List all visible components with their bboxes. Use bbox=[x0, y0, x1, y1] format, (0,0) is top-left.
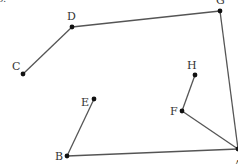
label-d: D bbox=[67, 10, 76, 23]
labels-layer: CDGHFEBA bbox=[12, 0, 238, 164]
label-f: F bbox=[170, 105, 178, 118]
point-b bbox=[65, 154, 70, 159]
segment-fa bbox=[182, 111, 238, 149]
point-g bbox=[218, 9, 223, 14]
point-e bbox=[92, 97, 97, 102]
point-f bbox=[180, 109, 185, 114]
segment-ga bbox=[220, 11, 238, 149]
segments-layer bbox=[23, 11, 238, 156]
label-c: C bbox=[12, 60, 20, 73]
point-diagram: CDGHFEBA bbox=[0, 0, 238, 164]
segment-ba bbox=[67, 149, 238, 156]
label-b: B bbox=[55, 150, 63, 163]
segment-cd bbox=[23, 27, 72, 74]
label-e: E bbox=[81, 96, 89, 109]
point-d bbox=[70, 25, 75, 30]
label-a: A bbox=[233, 158, 238, 164]
point-h bbox=[193, 73, 198, 78]
point-c bbox=[21, 72, 26, 77]
points-layer bbox=[21, 9, 238, 159]
segment-hf bbox=[182, 75, 195, 111]
segment-dg bbox=[72, 11, 220, 27]
label-h: H bbox=[187, 59, 197, 72]
label-g: G bbox=[216, 0, 225, 7]
